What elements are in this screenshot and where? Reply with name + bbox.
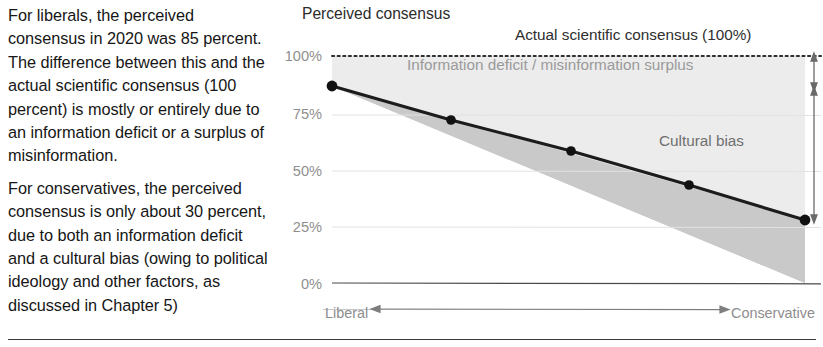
bottom-divider	[8, 339, 816, 340]
figure-root: For liberals, the perceived consensus in…	[0, 0, 823, 347]
data-point-marker	[327, 81, 338, 92]
paragraph-conservatives: For conservatives, the perceived consens…	[8, 177, 270, 317]
arrow-cultural-bias	[811, 87, 817, 223]
gridline-25	[332, 227, 821, 228]
explanatory-text: For liberals, the perceived consensus in…	[8, 4, 270, 326]
data-point-marker	[800, 215, 811, 226]
gridline-75	[332, 115, 821, 116]
annotation-information-deficit: Information deficit / misinformation sur…	[407, 56, 694, 74]
gridline-50	[332, 171, 821, 172]
data-point-marker	[446, 115, 456, 125]
data-point-marker	[566, 146, 576, 156]
paragraph-liberals: For liberals, the perceived consensus in…	[8, 4, 270, 168]
annotation-actual-consensus: Actual scientific consensus (100%)	[515, 26, 751, 44]
data-point-marker	[684, 180, 694, 190]
plot-svg	[276, 0, 823, 310]
chart: Perceived consensus 100% 75% 50% 25% 0%	[276, 0, 823, 347]
axis-baseline	[332, 283, 821, 284]
x-axis-label-conservative: Conservative	[731, 305, 815, 321]
plot-area	[276, 0, 823, 310]
annotation-cultural-bias: Cultural bias	[659, 132, 744, 150]
x-axis-label-liberal: Liberal	[325, 305, 368, 321]
